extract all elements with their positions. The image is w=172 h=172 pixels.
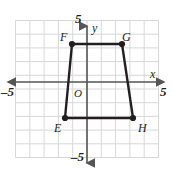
vertex-point-e — [62, 115, 68, 121]
coordinate-plane-figure: 5 –5 –5 5 y x O F G E H — [0, 0, 172, 172]
point-label-f: F — [60, 31, 67, 43]
y-axis-name-label: y — [92, 22, 97, 34]
point-label-e: E — [54, 122, 61, 134]
vertex-point-f — [69, 41, 75, 47]
x-axis-name-label: x — [150, 68, 155, 80]
x-axis-max-tick-label: 5 — [160, 85, 167, 98]
vertex-point-h — [130, 115, 136, 121]
y-axis-max-tick-label: 5 — [75, 12, 82, 25]
point-label-h: H — [138, 122, 147, 134]
plot-svg — [0, 0, 172, 172]
x-axis-min-tick-label: –5 — [1, 85, 14, 98]
point-label-g: G — [122, 31, 131, 43]
y-axis-min-tick-label: –5 — [71, 150, 84, 163]
origin-label: O — [74, 88, 82, 99]
trapezoid-efgh — [65, 44, 133, 118]
